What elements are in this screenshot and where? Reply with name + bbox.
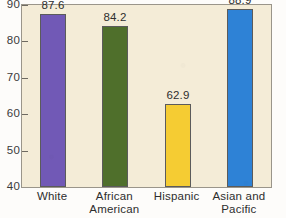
bar	[40, 14, 66, 187]
bar-value-label: 87.6	[26, 0, 80, 11]
y-axis-tick-label: 80	[1, 35, 20, 47]
x-axis-category-labels: WhiteAfricanAmericanHispanicAsian andPac…	[21, 190, 272, 218]
x-axis-category-label: Asian andPacific Islander	[208, 190, 270, 218]
y-axis-tick-label: 40	[1, 181, 20, 193]
bar-value-label: 62.9	[151, 90, 205, 102]
plot-inner: 87.684.262.988.9	[22, 5, 271, 187]
y-axis-tick-labels: 405060708090	[0, 0, 20, 218]
y-axis-tick-label: 70	[1, 72, 20, 84]
y-axis-tick	[22, 78, 28, 79]
y-axis-tick	[22, 151, 28, 152]
y-axis-tick-label: 60	[1, 108, 20, 120]
bar-value-label: 84.2	[88, 12, 142, 24]
y-axis-tick-label: 90	[1, 0, 20, 11]
bar	[227, 9, 253, 187]
bar-chart: 405060708090 87.684.262.988.9 WhiteAfric…	[0, 0, 286, 218]
bar-value-label: 88.9	[213, 0, 267, 7]
bar	[102, 26, 128, 187]
bar	[165, 104, 191, 187]
x-axis-category-label: White	[21, 190, 83, 203]
y-axis-tick	[22, 41, 28, 42]
y-axis-tick	[22, 114, 28, 115]
y-axis-tick-label: 50	[1, 145, 20, 157]
x-axis-category-label: Hispanic	[146, 190, 208, 203]
x-axis-category-label: AfricanAmerican	[83, 190, 145, 216]
plot-area: 87.684.262.988.9	[21, 4, 272, 188]
